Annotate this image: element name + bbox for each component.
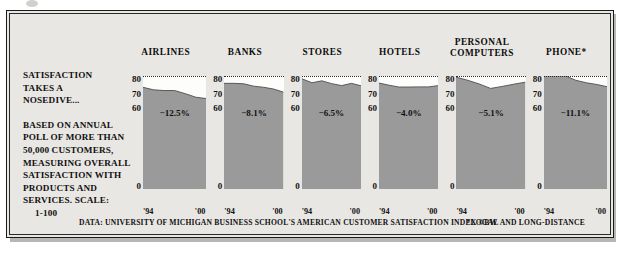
change-label: −12.5% bbox=[143, 108, 206, 118]
area-chart bbox=[143, 76, 206, 189]
area-chart bbox=[544, 76, 607, 189]
y-tick-0: 0 bbox=[295, 182, 300, 190]
area-chart bbox=[456, 76, 525, 189]
y-tick-80: 80 bbox=[445, 75, 454, 83]
y-tick-0: 0 bbox=[450, 182, 455, 190]
chart-panel-airlines: AIRLINES8070600−12.5%'94'00 bbox=[125, 29, 206, 211]
chart-panel-banks: BANKS8070600−8.1%'94'00 bbox=[206, 29, 283, 211]
panel-title: BANKS bbox=[206, 47, 283, 58]
y-tick-80: 80 bbox=[132, 75, 141, 83]
panel-title: PERSONALCOMPUTERS bbox=[438, 37, 525, 58]
x-tick-end: '00 bbox=[514, 207, 524, 216]
gridline-80 bbox=[224, 76, 283, 77]
y-tick-60: 60 bbox=[291, 104, 300, 112]
headline-line-1: SATISFACTION bbox=[23, 69, 131, 82]
headline-line-3: NOSEDIVE... bbox=[23, 94, 131, 107]
change-label: −8.1% bbox=[224, 108, 283, 118]
description-line-1: BASED ON ANNUAL bbox=[23, 119, 131, 132]
y-tick-80: 80 bbox=[291, 75, 300, 83]
panel-title: AIRLINES bbox=[125, 47, 206, 58]
area-chart bbox=[379, 76, 438, 189]
plot-area: 8070600−4.0% bbox=[361, 76, 438, 189]
gridline-80 bbox=[143, 76, 206, 77]
description-line-6: PRODUCTS AND bbox=[23, 182, 131, 195]
plot-area: 8070600−6.5% bbox=[284, 76, 361, 189]
plot-area: 8070600−8.1% bbox=[206, 76, 283, 189]
x-tick-end: '00 bbox=[596, 207, 606, 216]
change-label: −5.1% bbox=[456, 108, 525, 118]
figure-shadow-bottom bbox=[10, 238, 616, 242]
gridline-80 bbox=[544, 76, 607, 77]
y-tick-70: 70 bbox=[132, 90, 141, 98]
change-label: −4.0% bbox=[379, 108, 438, 118]
x-tick-start: '94 bbox=[456, 207, 466, 216]
y-tick-70: 70 bbox=[368, 90, 377, 98]
figure-caption-block: SATISFACTION TAKES A NOSEDIVE... BASED O… bbox=[23, 69, 131, 220]
x-tick-end: '00 bbox=[427, 207, 437, 216]
panel-title: PHONE* bbox=[526, 47, 607, 58]
y-tick-60: 60 bbox=[132, 104, 141, 112]
plot-area: 8070600−11.1% bbox=[526, 76, 607, 189]
y-tick-60: 60 bbox=[213, 104, 222, 112]
y-tick-0: 0 bbox=[537, 182, 542, 190]
description-line-2: POLL OF MORE THAN bbox=[23, 131, 131, 144]
panel-title: HOTELS bbox=[361, 47, 438, 58]
x-tick-start: '94 bbox=[143, 207, 153, 216]
description: BASED ON ANNUAL POLL OF MORE THAN 50,000… bbox=[23, 119, 131, 220]
y-tick-0: 0 bbox=[218, 182, 223, 190]
description-line-7: SERVICES. SCALE: bbox=[23, 194, 131, 207]
gridline-80 bbox=[379, 76, 438, 77]
footnote: *LOCAL AND LONG-DISTANCE bbox=[466, 218, 585, 227]
y-axis: 8070600 bbox=[526, 76, 542, 189]
area-chart bbox=[302, 76, 361, 189]
y-axis: 8070600 bbox=[361, 76, 377, 189]
y-tick-70: 70 bbox=[213, 90, 222, 98]
description-line-4: MEASURING OVERALL bbox=[23, 157, 131, 170]
y-tick-60: 60 bbox=[445, 104, 454, 112]
gridline-80 bbox=[302, 76, 361, 77]
x-tick-start: '94 bbox=[302, 207, 312, 216]
y-axis: 8070600 bbox=[206, 76, 222, 189]
y-tick-0: 0 bbox=[373, 182, 378, 190]
y-tick-60: 60 bbox=[368, 104, 377, 112]
description-line-3: 50,000 CUSTOMERS, bbox=[23, 144, 131, 157]
description-line-5: SATISFACTION WITH bbox=[23, 169, 131, 182]
chart-panel-stores: STORES8070600−6.5%'94'00 bbox=[284, 29, 361, 211]
figure-footer: DATA: UNIVERSITY OF MICHIGAN BUSINESS SC… bbox=[7, 218, 613, 230]
y-tick-80: 80 bbox=[213, 75, 222, 83]
y-axis: 8070600 bbox=[125, 76, 141, 189]
y-tick-70: 70 bbox=[291, 90, 300, 98]
x-tick-start: '94 bbox=[224, 207, 234, 216]
y-tick-70: 70 bbox=[533, 90, 542, 98]
gridline-80 bbox=[456, 76, 525, 77]
y-tick-70: 70 bbox=[445, 90, 454, 98]
x-tick-start: '94 bbox=[544, 207, 554, 216]
chart-panel-personal-computers: PERSONALCOMPUTERS8070600−5.1%'94'00 bbox=[438, 29, 525, 211]
x-tick-end: '00 bbox=[195, 207, 205, 216]
y-tick-0: 0 bbox=[137, 182, 142, 190]
area-chart bbox=[224, 76, 283, 189]
plot-area: 8070600−12.5% bbox=[125, 76, 206, 189]
y-axis: 8070600 bbox=[438, 76, 454, 189]
plot-area: 8070600−5.1% bbox=[438, 76, 525, 189]
headline-line-2: TAKES A bbox=[23, 82, 131, 95]
page-corner-mark bbox=[26, 0, 38, 7]
y-tick-80: 80 bbox=[533, 75, 542, 83]
x-tick-end: '00 bbox=[272, 207, 282, 216]
source-note: DATA: UNIVERSITY OF MICHIGAN BUSINESS SC… bbox=[79, 218, 497, 227]
y-tick-80: 80 bbox=[368, 75, 377, 83]
y-axis: 8070600 bbox=[284, 76, 300, 189]
change-label: −11.1% bbox=[544, 108, 607, 118]
chart-panels: AIRLINES8070600−12.5%'94'00BANKS8070600−… bbox=[125, 29, 607, 211]
y-tick-60: 60 bbox=[533, 104, 542, 112]
x-tick-end: '00 bbox=[350, 207, 360, 216]
infographic-figure: SATISFACTION TAKES A NOSEDIVE... BASED O… bbox=[6, 10, 614, 238]
panel-title: STORES bbox=[284, 47, 361, 58]
chart-panel-hotels: HOTELS8070600−4.0%'94'00 bbox=[361, 29, 438, 211]
headline: SATISFACTION TAKES A NOSEDIVE... bbox=[23, 69, 131, 107]
chart-panel-phone: PHONE*8070600−11.1%'94'00 bbox=[526, 29, 607, 211]
change-label: −6.5% bbox=[302, 108, 361, 118]
x-tick-start: '94 bbox=[379, 207, 389, 216]
